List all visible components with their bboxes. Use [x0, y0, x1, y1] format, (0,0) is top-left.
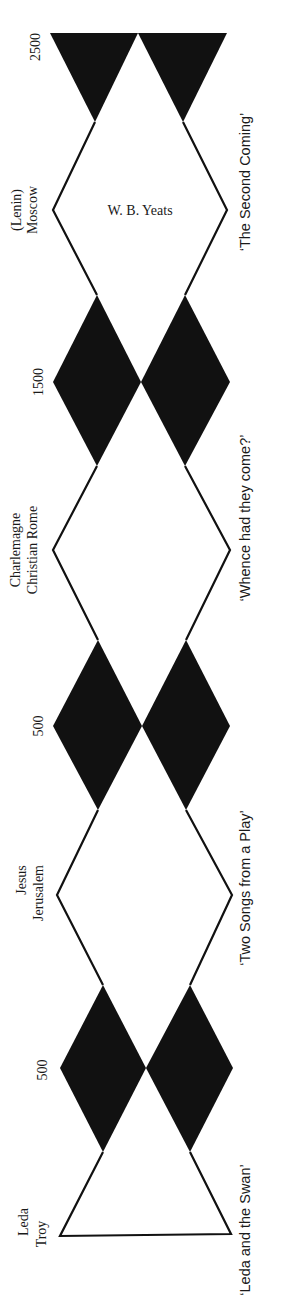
label-christian-rome: Christian Rome [25, 506, 40, 594]
label-troy: Troy [34, 1221, 49, 1248]
label-jesus: Jesus [14, 865, 29, 895]
label-2500: 2500 [28, 33, 43, 61]
poem-second-coming: ‘The Second Coming’ [237, 113, 253, 252]
label-charlemagne: Charlemagne [8, 513, 23, 588]
left-labels: 2500 (Lenin) Moscow 1500 Charlemagne Chr… [8, 33, 50, 1247]
dark-cones-2500 [50, 33, 227, 122]
poem-whence-had-they-come: ‘Whence had they come?’ [237, 435, 253, 602]
label-1500: 1500 [31, 368, 46, 396]
label-500-bc: 500 [35, 1060, 50, 1081]
poem-two-songs-from-a-play: ‘Two Songs from a Play’ [237, 810, 253, 966]
right-labels: ‘The Second Coming’ ‘Whence had they com… [237, 113, 253, 1296]
label-500-ad: 500 [31, 716, 46, 737]
dark-diamonds-1500 [53, 295, 230, 466]
center-label: W. B. Yeats [107, 203, 172, 218]
dark-diamonds-500-bc [60, 985, 233, 1152]
label-jerusalem: Jerusalem [31, 865, 46, 921]
label-moscow: Moscow [25, 185, 40, 234]
yeats-gyres-diagram: W. B. Yeats 2500 (Lenin) Moscow 1500 Cha… [0, 0, 289, 1310]
dark-diamonds-500-ad [53, 640, 230, 810]
poem-leda-and-the-swan: ‘Leda and the Swan’ [237, 1164, 253, 1295]
label-leda: Leda [16, 1207, 31, 1236]
label-lenin: (Lenin) [9, 189, 25, 231]
